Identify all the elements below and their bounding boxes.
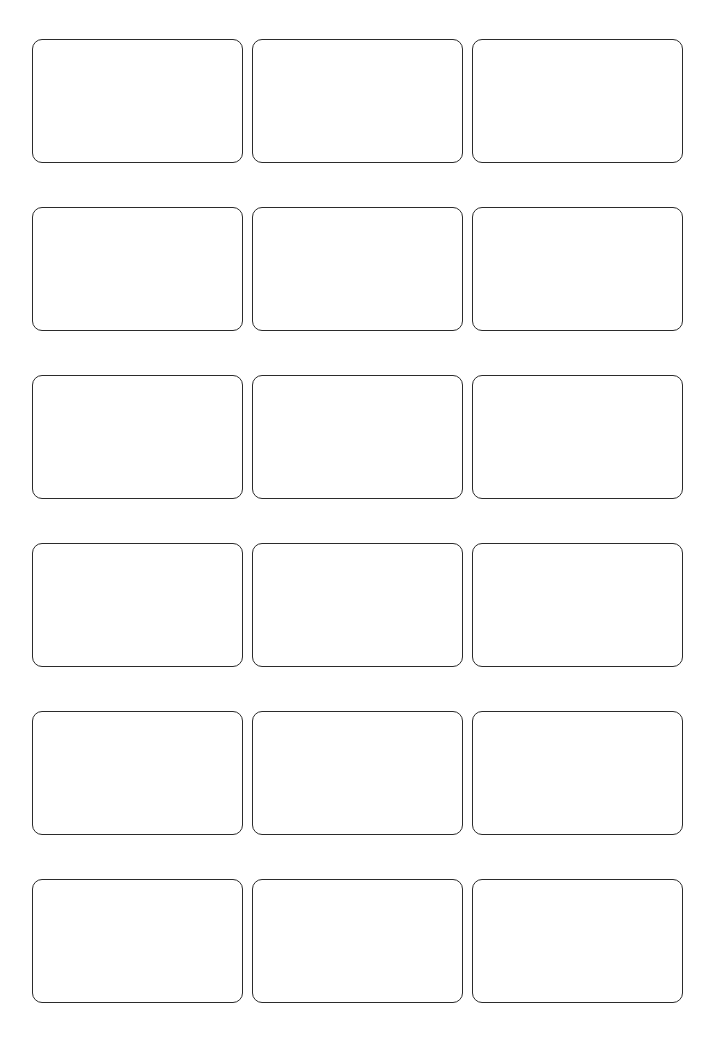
card[interactable]: [472, 879, 683, 1003]
card-content: [253, 376, 462, 498]
card-content: [33, 544, 242, 666]
card-content: [253, 208, 462, 330]
card[interactable]: [472, 39, 683, 163]
card[interactable]: [32, 543, 243, 667]
card-content: [33, 712, 242, 834]
card[interactable]: [472, 543, 683, 667]
card-content: [473, 40, 682, 162]
card[interactable]: [472, 207, 683, 331]
label-sheet: [0, 0, 720, 1050]
card-content: [253, 880, 462, 1002]
card[interactable]: [32, 207, 243, 331]
card[interactable]: [472, 711, 683, 835]
card-content: [33, 40, 242, 162]
card[interactable]: [252, 39, 463, 163]
card[interactable]: [252, 543, 463, 667]
card[interactable]: [252, 207, 463, 331]
card-content: [473, 544, 682, 666]
card[interactable]: [32, 375, 243, 499]
card-content: [33, 376, 242, 498]
card-content: [473, 208, 682, 330]
card[interactable]: [252, 375, 463, 499]
card[interactable]: [472, 375, 683, 499]
card-content: [33, 208, 242, 330]
card[interactable]: [32, 879, 243, 1003]
card[interactable]: [252, 711, 463, 835]
card-content: [253, 544, 462, 666]
card-content: [253, 712, 462, 834]
card-content: [253, 40, 462, 162]
card[interactable]: [32, 711, 243, 835]
card-grid: [32, 39, 684, 1003]
card[interactable]: [252, 879, 463, 1003]
card-content: [473, 712, 682, 834]
card[interactable]: [32, 39, 243, 163]
card-content: [33, 880, 242, 1002]
card-content: [473, 376, 682, 498]
card-content: [473, 880, 682, 1002]
